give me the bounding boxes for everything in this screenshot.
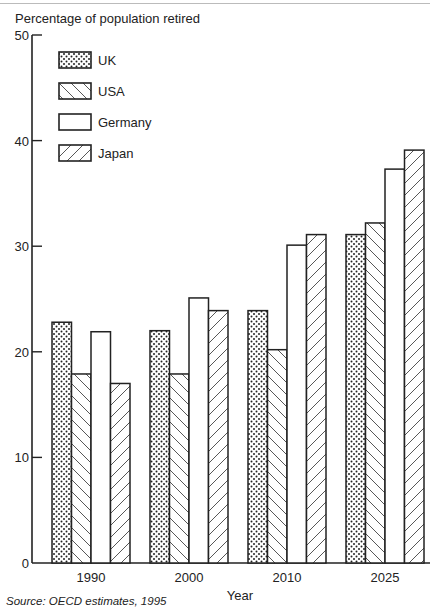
bar-usa-1990 [72, 374, 92, 563]
legend-swatch-japan [59, 145, 91, 161]
bar-uk-2010 [248, 311, 268, 563]
bar-uk-1990 [52, 322, 72, 563]
bar-japan-1990 [111, 383, 131, 563]
y-tick-label: 50 [15, 28, 29, 43]
legend-label-usa: USA [98, 84, 125, 99]
bar-japan-2025 [405, 150, 425, 563]
y-tick-label: 30 [15, 239, 29, 254]
bar-uk-2000 [150, 331, 170, 563]
x-tick-label: 2025 [371, 570, 400, 585]
legend-label-uk: UK [98, 53, 116, 68]
bar-chart: 010203040501990200020102025Year UKUSAGer… [0, 0, 437, 611]
bar-germany-2010 [287, 245, 307, 563]
bars [52, 150, 424, 563]
legend-swatch-uk [59, 52, 91, 68]
bar-usa-2010 [268, 350, 288, 563]
bar-usa-2025 [366, 223, 386, 563]
legend-swatch-usa [59, 83, 91, 99]
y-tick-label: 10 [15, 450, 29, 465]
x-tick-label: 2010 [273, 570, 302, 585]
y-tick-label: 0 [22, 556, 29, 571]
legend-swatch-germany [59, 114, 91, 130]
x-axis-title: Year [227, 588, 254, 603]
bar-germany-2025 [385, 169, 405, 563]
legend-label-japan: Japan [98, 146, 133, 161]
bar-uk-2025 [346, 235, 366, 563]
source-note: Source: OECD estimates, 1995 [6, 595, 166, 607]
bar-usa-2000 [170, 374, 190, 563]
legend-label-germany: Germany [98, 115, 152, 130]
bar-japan-2010 [307, 235, 327, 563]
x-tick-label: 1990 [77, 570, 106, 585]
y-tick-label: 40 [15, 134, 29, 149]
legend: UKUSAGermanyJapan [59, 52, 152, 161]
y-tick-label: 20 [15, 345, 29, 360]
bar-germany-2000 [189, 298, 209, 563]
bar-japan-2000 [209, 311, 229, 563]
x-tick-label: 2000 [175, 570, 204, 585]
bar-germany-1990 [91, 332, 111, 563]
